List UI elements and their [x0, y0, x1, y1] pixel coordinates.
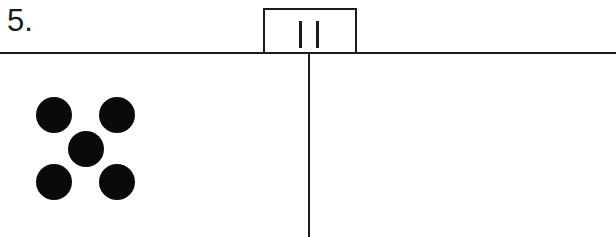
tally-mark-icon [316, 21, 319, 48]
answer-box [263, 8, 357, 54]
tally-mark-icon [299, 21, 302, 48]
right-panel[interactable] [310, 54, 616, 237]
dot-icon [99, 164, 135, 200]
dot-icon [68, 131, 104, 167]
dot-icon [36, 97, 72, 133]
question-number: 5. [7, 5, 33, 36]
dot-icon [99, 97, 135, 133]
dot-icon [36, 164, 72, 200]
left-panel [0, 54, 308, 237]
